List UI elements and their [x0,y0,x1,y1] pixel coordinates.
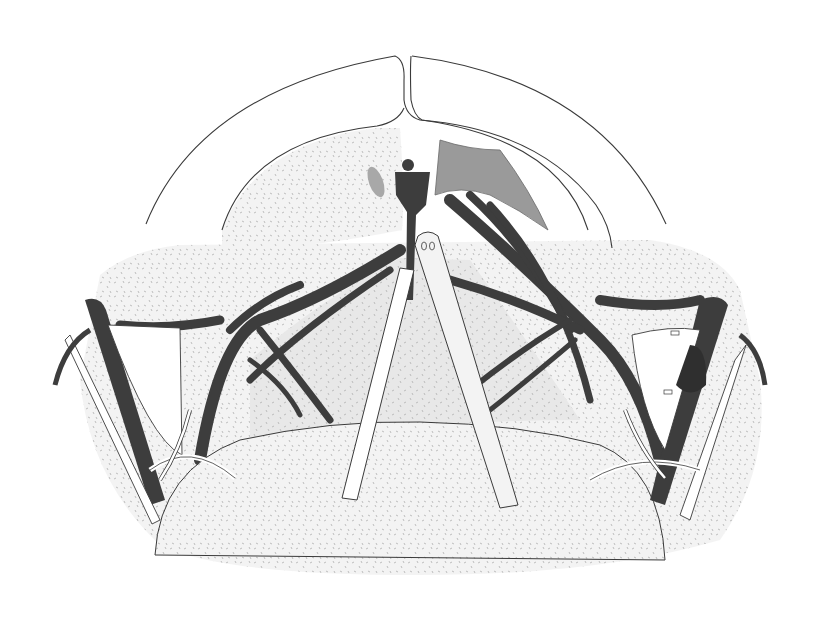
illustration-stage: Line illustration of an operative field:… [0,0,823,617]
surgical-illustration [0,0,823,617]
outer-flap-outlines [146,56,666,248]
